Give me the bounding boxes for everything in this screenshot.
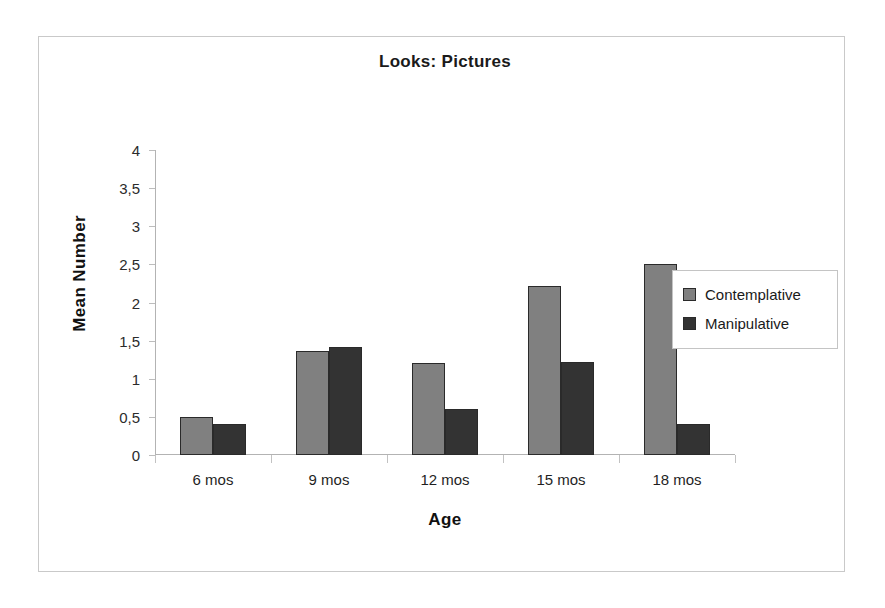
y-tick-label: 2	[132, 294, 140, 311]
bar	[528, 286, 561, 455]
x-tick	[271, 455, 272, 463]
bar	[445, 409, 478, 455]
bar	[180, 417, 213, 455]
x-tick	[387, 455, 388, 463]
legend: ContemplativeManipulative	[672, 270, 838, 349]
y-tick-label: 0,5	[119, 408, 140, 425]
x-category-label: 15 mos	[503, 471, 619, 488]
legend-swatch-icon	[683, 288, 696, 301]
x-axis-title: Age	[155, 510, 735, 530]
x-tick	[155, 455, 156, 463]
bar-group	[387, 150, 503, 455]
legend-label: Contemplative	[705, 286, 801, 303]
y-tick-label: 0	[132, 447, 140, 464]
x-tick	[619, 455, 620, 463]
x-category-label: 18 mos	[619, 471, 735, 488]
x-tick	[735, 455, 736, 463]
y-tick-label: 4	[132, 142, 140, 159]
bar	[329, 347, 362, 455]
figure-canvas: Looks: Pictures Mean Number 00,511,522,5…	[0, 0, 885, 608]
y-tick-label: 2,5	[119, 256, 140, 273]
bar	[561, 362, 594, 455]
chart-title: Looks: Pictures	[150, 52, 740, 72]
legend-label: Manipulative	[705, 315, 789, 332]
legend-item[interactable]: Manipulative	[683, 309, 827, 338]
bar	[412, 363, 445, 455]
bar-group	[503, 150, 619, 455]
x-category-label: 9 mos	[271, 471, 387, 488]
bar	[296, 351, 329, 455]
x-category-label: 6 mos	[155, 471, 271, 488]
y-tick-label: 1,5	[119, 332, 140, 349]
y-axis-title: Mean Number	[70, 215, 98, 332]
y-tick-label: 3,5	[119, 180, 140, 197]
x-tick	[503, 455, 504, 463]
plot-area: 00,511,522,533,54 6 mos9 mos12 mos15 mos…	[155, 150, 735, 455]
x-category-label: 12 mos	[387, 471, 503, 488]
legend-swatch-icon	[683, 317, 696, 330]
bar	[677, 424, 710, 455]
bar-group	[271, 150, 387, 455]
bar-group	[155, 150, 271, 455]
legend-item[interactable]: Contemplative	[683, 280, 827, 309]
y-tick-label: 1	[132, 370, 140, 387]
bar	[213, 424, 246, 455]
y-tick-label: 3	[132, 218, 140, 235]
